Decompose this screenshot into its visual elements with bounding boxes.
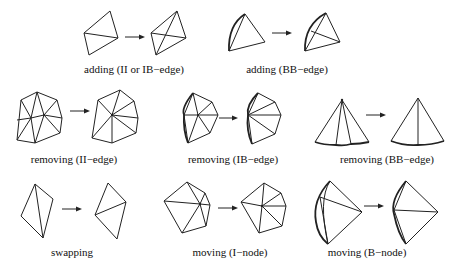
mesh-before bbox=[17, 92, 62, 143]
right-arrow-icon bbox=[218, 206, 238, 211]
panel-removing-ib bbox=[183, 93, 281, 144]
caption-removing-bb: removing (BB−edge) bbox=[340, 153, 434, 165]
mesh-after bbox=[248, 93, 282, 144]
diagram-canvas bbox=[0, 0, 459, 269]
mesh-after bbox=[391, 98, 444, 145]
right-arrow-icon bbox=[272, 31, 292, 36]
panel-moving-i bbox=[164, 182, 286, 233]
mesh-before bbox=[183, 93, 218, 143]
panel-swapping bbox=[21, 183, 126, 239]
caption-adding-ii-ib: adding (II or IB−edge) bbox=[84, 63, 184, 75]
mesh-operations-figure: adding (II or IB−edge) adding (BB−edge) … bbox=[0, 0, 459, 269]
mesh-after bbox=[95, 183, 126, 239]
mesh-before bbox=[229, 14, 265, 51]
mesh-before bbox=[84, 11, 118, 55]
mesh-after bbox=[305, 13, 340, 51]
caption-moving-i: moving (I−node) bbox=[193, 246, 268, 258]
caption-adding-bb: adding (BB−edge) bbox=[246, 63, 328, 75]
panel-removing-bb bbox=[315, 98, 444, 145]
mesh-before bbox=[164, 182, 210, 233]
mesh-before bbox=[21, 184, 53, 238]
panel-moving-b bbox=[315, 181, 438, 244]
caption-moving-b: moving (B−node) bbox=[328, 246, 407, 258]
mesh-after bbox=[151, 11, 186, 55]
right-arrow-icon bbox=[219, 116, 238, 121]
right-arrow-icon bbox=[366, 113, 386, 118]
caption-removing-ib: removing (IB−edge) bbox=[188, 153, 278, 165]
panel-adding-ii-ib bbox=[84, 11, 186, 55]
mesh-after bbox=[92, 90, 138, 143]
caption-removing-ii: removing (II−edge) bbox=[31, 153, 118, 165]
caption-swapping: swapping bbox=[51, 246, 93, 258]
right-arrow-icon bbox=[70, 109, 90, 114]
mesh-before bbox=[315, 181, 362, 244]
mesh-before bbox=[315, 99, 369, 146]
mesh-after bbox=[393, 181, 438, 244]
right-arrow-icon bbox=[62, 207, 82, 212]
right-arrow-icon bbox=[125, 35, 145, 40]
panel-removing-ii bbox=[17, 90, 138, 143]
panel-adding-bb bbox=[229, 13, 340, 51]
right-arrow-icon bbox=[364, 204, 384, 209]
mesh-after bbox=[241, 183, 286, 233]
